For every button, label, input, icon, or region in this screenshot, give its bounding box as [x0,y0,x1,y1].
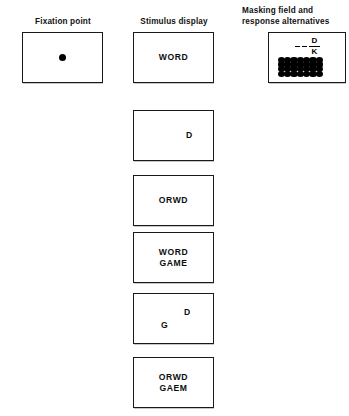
column-header-masking-field: Masking field and response alternatives [238,5,349,27]
stimulus-letter-g: G [161,320,168,330]
stimulus-display-box-word-game: WORD GAME [133,232,214,283]
response-alternatives-group: D K [295,37,320,56]
mask-dot-icon [316,71,323,77]
masking-dot-matrix [278,58,323,76]
stimulus-letter-d: D [184,307,191,317]
response-alternative-lower: K [311,48,319,56]
stimulus-text: ORWD [134,195,213,207]
response-dashes-icon [295,46,307,48]
stimulus-display-box-single-letter: D [133,110,214,161]
column-header-fixation-point: Fixation point [8,16,118,27]
dash-mark-icon [295,46,300,47]
masking-field-display-box: D K [268,32,346,83]
stimulus-letter-d: D [186,130,193,140]
stimulus-text: WORD GAME [134,246,213,269]
dash-mark-icon [302,46,307,47]
stimulus-text: WORD [134,52,213,64]
response-letter-stack: D K [309,37,320,56]
response-alternative-upper: D [311,37,319,45]
fixation-point-display-box [22,32,103,83]
stimulus-display-box-orwd-gaem: ORWD GAEM [133,357,214,408]
psychology-experiment-figure: Fixation point Stimulus display Masking … [0,0,349,416]
stimulus-display-box-word: WORD [133,32,214,83]
column-header-stimulus-display: Stimulus display [118,16,230,27]
stimulus-display-box-two-letters: D G [133,293,214,344]
stimulus-display-box-orwd: ORWD [133,175,214,226]
fixation-dot-icon [59,54,66,61]
stimulus-text: ORWD GAEM [134,371,213,394]
